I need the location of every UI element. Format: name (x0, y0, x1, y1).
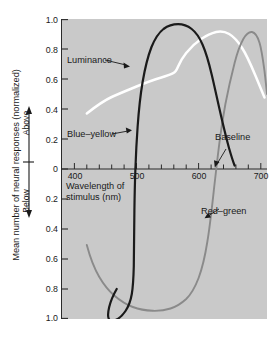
y-tick-label-5: 0.2 (32, 135, 58, 145)
y-tick-label-9: 0.6 (32, 254, 58, 264)
series-line-red-green (87, 32, 267, 311)
y-tick-label-10: 0.8 (32, 284, 58, 294)
y-axis-title-container: Mean number of neural responses (normali… (0, 0, 18, 340)
y-tick-label-3: 0.6 (32, 75, 58, 85)
y-tick-label-7: 0.2 (32, 194, 58, 204)
figure-chart: Mean number of neural responses (normali… (0, 0, 280, 340)
x-axis-title-line2: stimulus (nm) (66, 192, 124, 203)
y-tick-label-1: 1.0 (32, 15, 58, 25)
x-axis-title: Wavelength of stimulus (nm) (66, 181, 124, 202)
x-tick-label-400: 400 (60, 171, 90, 181)
y-tick-label-2: 0.8 (32, 45, 58, 55)
series-line-luminance (87, 32, 265, 114)
x-tick-label-700: 700 (246, 171, 276, 181)
annotation-red-green: Red–green (201, 206, 246, 216)
annotation-baseline: Baseline (215, 132, 250, 142)
x-axis-title-line1: Wavelength of (66, 181, 124, 192)
y-tick-label-4: 0.4 (32, 105, 58, 115)
y-tick-label-6: 0 (32, 164, 58, 174)
x-tick-label-500: 500 (122, 171, 152, 181)
y-tick-label-11: 1.0 (32, 313, 58, 323)
x-tick-label-600: 600 (184, 171, 214, 181)
y-tick-label-8: 0.4 (32, 224, 58, 234)
annotation-luminance: Luminance (67, 55, 112, 65)
annotation-blue-yellow: Blue–yellow (67, 129, 116, 139)
